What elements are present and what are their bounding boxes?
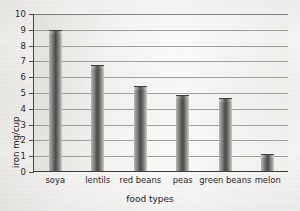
y-axis-tick xyxy=(29,140,34,141)
bar-green-beans xyxy=(219,98,232,171)
y-axis-tick-label: 2 xyxy=(20,135,26,145)
y-gridline xyxy=(34,125,288,126)
y-gridline xyxy=(34,109,288,110)
x-axis-label-red-beans: red beans xyxy=(119,175,161,185)
y-axis-tick xyxy=(29,14,34,15)
y-axis-tick-label: 6 xyxy=(20,72,26,82)
y-axis-tick xyxy=(29,77,34,78)
y-axis-tick xyxy=(29,156,34,157)
y-axis-tick xyxy=(29,125,34,126)
y-axis-tick xyxy=(29,61,34,62)
y-axis-tick xyxy=(29,46,34,47)
bar-melon xyxy=(261,154,274,171)
y-axis-tick-label: 8 xyxy=(20,41,26,51)
y-axis-tick xyxy=(29,30,34,31)
y-axis-tick-label: 4 xyxy=(20,104,26,114)
y-axis-tick-label: 7 xyxy=(20,56,26,66)
y-gridline xyxy=(34,61,288,62)
y-axis-tick-label: 5 xyxy=(20,88,26,98)
y-axis-tick-label: 0 xyxy=(20,167,26,177)
bar-peas xyxy=(176,95,189,171)
y-gridline xyxy=(34,14,288,15)
bar-lentils xyxy=(91,65,104,171)
x-axis-label-lentils: lentils xyxy=(85,175,110,185)
x-axis-label-melon: melon xyxy=(255,175,281,185)
x-axis-label-peas: peas xyxy=(173,175,193,185)
y-gridline xyxy=(34,30,288,31)
y-gridline xyxy=(34,140,288,141)
y-axis-tick xyxy=(29,93,34,94)
bar-chart-figure: iron mg/cup 012345678910soyalentilsred b… xyxy=(0,0,300,211)
bar-red-beans xyxy=(134,86,147,171)
y-gridline xyxy=(34,77,288,78)
y-gridline xyxy=(34,93,288,94)
y-axis-tick xyxy=(29,172,34,173)
y-axis-tick-label: 3 xyxy=(20,120,26,130)
y-axis-tick xyxy=(29,109,34,110)
y-axis-tick-label: 1 xyxy=(20,151,26,161)
x-axis-label-soya: soya xyxy=(45,175,65,185)
bar-soya xyxy=(49,30,62,171)
x-axis-title: food types xyxy=(0,194,300,204)
plot-area: 012345678910soyalentilsred beanspeasgree… xyxy=(33,14,288,172)
y-gridline xyxy=(34,46,288,47)
y-axis-tick-label: 10 xyxy=(15,9,26,19)
y-axis-tick-label: 9 xyxy=(20,25,26,35)
x-axis-label-green-beans: green beans xyxy=(199,175,251,185)
y-gridline xyxy=(34,156,288,157)
